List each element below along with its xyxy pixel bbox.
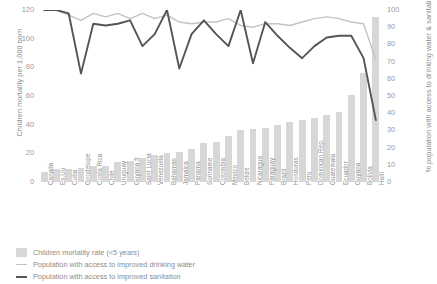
line-drinking-water <box>44 10 376 60</box>
y-tick-right-70: 70 <box>387 58 409 66</box>
x-axis-label: Saint Lucia <box>145 153 152 185</box>
x-axis-label: Venezuela <box>157 155 164 185</box>
legend-item-drinking-water: Population with access to improved drink… <box>16 259 316 270</box>
y-tick-right-20: 20 <box>387 144 409 152</box>
y-tick-right-40: 40 <box>387 109 409 117</box>
y-axis-right-title: % population with access to drinking wat… <box>424 0 433 173</box>
legend-item-mortality: Children mortality rate (<5 years) <box>16 247 316 258</box>
y-axis-left-title: Children mortality per 1,000 born <box>15 8 24 158</box>
x-axis-label: Peru <box>305 171 312 185</box>
x-axis-label: Ecuador <box>342 161 349 185</box>
x-axis-label: Nicaragua <box>256 156 263 185</box>
y-tick-left-80: 80 <box>12 63 34 71</box>
y-tick-right-10: 10 <box>387 161 409 169</box>
x-axis-label: Guatemala <box>329 154 336 185</box>
legend-label-drinking-water: Population with access to improved drink… <box>33 260 195 269</box>
y-tick-left-60: 60 <box>12 92 34 100</box>
x-axis-label: Chile <box>108 170 115 185</box>
x-axis-label: Colombia <box>219 158 226 185</box>
legend-label-mortality: Children mortality rate (<5 years) <box>33 248 139 257</box>
y-tick-left-100: 100 <box>12 35 34 43</box>
y-tick-right-80: 80 <box>387 40 409 48</box>
x-axis-label: Es.Uu <box>59 168 66 185</box>
chart-legend: Children mortality rate (<5 years) Popul… <box>16 247 316 283</box>
x-axis-label: Paraguay <box>268 158 275 185</box>
x-axis-label: Bahamas <box>170 158 177 185</box>
y-tick-left-0: 0 <box>12 178 34 186</box>
y-tick-left-40: 40 <box>12 121 34 129</box>
x-axis-label: Canada <box>47 163 54 185</box>
legend-label-sanitation: Population with access to improved sanit… <box>33 272 181 281</box>
y-tick-left-120: 120 <box>12 6 34 14</box>
x-axis-label: Uruguay <box>120 161 127 185</box>
y-tick-right-30: 30 <box>387 126 409 134</box>
x-axis-label: Dominican Rep. <box>317 140 324 186</box>
x-axis-label: Haiti <box>378 172 385 185</box>
line-light-icon <box>16 264 27 265</box>
x-axis-label: Guyana fr <box>133 157 140 185</box>
legend-item-sanitation: Population with access to improved sanit… <box>16 271 316 282</box>
chart-container: Children mortality per 1,000 born % popu… <box>0 0 437 284</box>
line-sanitation <box>44 10 376 120</box>
y-tick-right-90: 90 <box>387 23 409 31</box>
x-axis-label: Costa Rica <box>96 154 103 185</box>
x-axis-label: Belize <box>243 168 250 185</box>
y-tick-right-60: 60 <box>387 75 409 83</box>
y-tick-right-50: 50 <box>387 92 409 100</box>
x-axis-label: Suriname <box>206 158 213 185</box>
y-tick-left-20: 20 <box>12 149 34 157</box>
bar-swatch-icon <box>16 248 27 257</box>
x-axis-label: Goodelupe <box>84 154 91 185</box>
x-axis-label: Guyana <box>354 163 361 185</box>
line-dark-icon <box>16 276 27 278</box>
y-tick-right-100: 100 <box>387 6 409 14</box>
x-axis-label: Jamaica <box>182 161 189 185</box>
x-axis-label: Panama <box>194 161 201 185</box>
y-tick-right-0: 0 <box>387 178 409 186</box>
x-axis-label: Bolivia <box>366 166 373 185</box>
x-axis-label: Cuba <box>71 170 78 185</box>
x-axis-label: Brazil <box>280 169 287 185</box>
x-axis-label: Honduras <box>292 157 299 185</box>
x-axis-label: Mexico <box>231 165 238 185</box>
